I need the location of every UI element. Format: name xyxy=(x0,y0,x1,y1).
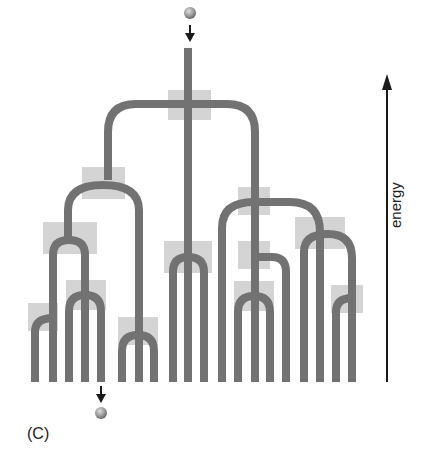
energy-arrow-icon xyxy=(382,74,392,382)
output-ball-icon xyxy=(95,407,107,419)
input-ball-icon xyxy=(184,7,196,19)
junction-boxes xyxy=(28,90,363,345)
energy-axis-label: energy xyxy=(387,182,404,228)
energy-tree-diagram xyxy=(0,0,436,463)
panel-label: (C) xyxy=(27,425,49,443)
output-arrow-icon xyxy=(96,386,106,403)
input-arrow-icon xyxy=(185,25,195,42)
